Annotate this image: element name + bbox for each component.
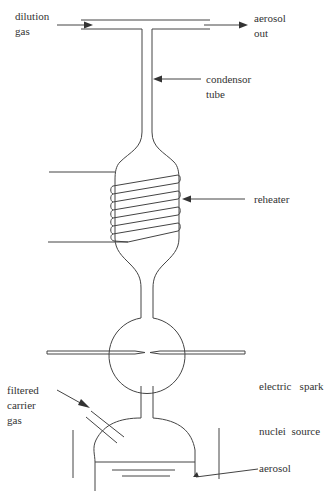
spark-chamber — [109, 318, 185, 418]
reheater-coil — [48, 172, 180, 242]
carrier-gas-arrow-icon — [57, 390, 90, 408]
aerosol-pointer-icon — [193, 469, 258, 477]
label-dilution-gas: dilution gas — [15, 9, 49, 39]
aerosol-out-arrow-icon — [210, 22, 248, 29]
label-condensor-tube: condensor tube — [206, 72, 251, 102]
label-reheater: reheater — [254, 192, 289, 207]
bottom-flask — [73, 411, 219, 491]
label-carrier-gas: filtered carrier gas — [7, 383, 39, 428]
t-junction-tube — [81, 20, 210, 29]
condensor-tube — [115, 29, 179, 318]
label-aerosol: aerosol — [259, 461, 291, 476]
label-aerosol-out: aerosol out — [254, 11, 286, 41]
spark-electrodes — [47, 351, 245, 354]
condensor-arrow-icon — [153, 76, 201, 83]
dilution-gas-arrow-icon — [57, 22, 93, 29]
reheater-arrow-icon — [182, 196, 245, 203]
label-spark-source: electric spark nuclei source — [259, 349, 323, 454]
